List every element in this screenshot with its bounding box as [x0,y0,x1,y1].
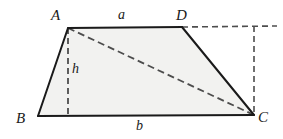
vertex-label-b: B [16,111,25,126]
side-cb [38,115,254,116]
vertex-label-d: D [176,8,187,23]
extension-dashed-line-top [182,26,277,27]
trapezoid-fill [38,27,254,116]
geometry-figure: A D B C a b h [0,0,283,139]
side-label-a-top: a [118,8,125,22]
side-label-h-height: h [72,62,79,76]
vertex-label-a: A [51,8,60,23]
vertex-label-c: C [258,110,268,125]
side-ad [68,27,182,28]
side-label-b-bottom: b [136,119,143,133]
